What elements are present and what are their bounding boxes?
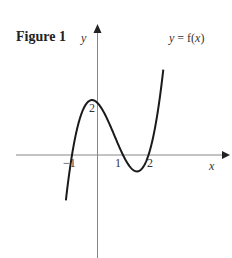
x-axis-label: x [208, 159, 215, 173]
y-axis-label: y [80, 31, 87, 45]
tick-label-y-2: 2 [89, 101, 95, 115]
tick-label-x-neg1: −1 [63, 156, 76, 170]
curve-f-of-x [66, 70, 163, 201]
tick-label-x-1: 1 [115, 156, 121, 170]
tick-label-x-2: 2 [147, 156, 153, 170]
figure-1-plot: Figure 1 y x y = f(x) −1 1 2 2 [0, 0, 232, 258]
curve-label: y = f(x) [168, 31, 204, 45]
y-axis-arrow-icon [94, 24, 102, 33]
figure-title: Figure 1 [16, 29, 66, 44]
x-axis-arrow-icon [222, 151, 230, 159]
